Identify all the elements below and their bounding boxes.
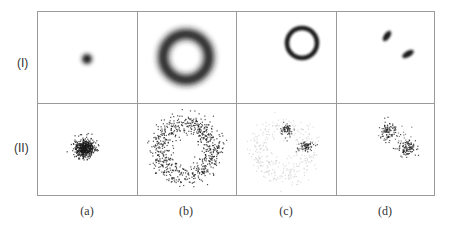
sample-point-c-faint bbox=[293, 171, 294, 172]
sample-point-c-faint bbox=[283, 164, 284, 165]
sample-point-c-faint bbox=[276, 157, 277, 158]
sample-point-b bbox=[160, 161, 161, 162]
sample-point-c-faint bbox=[300, 162, 301, 163]
col-label-b: (b) bbox=[179, 204, 193, 218]
sample-point-b bbox=[168, 134, 169, 135]
sample-point-a bbox=[83, 140, 84, 141]
sample-point-b bbox=[172, 177, 173, 178]
sample-point-b bbox=[188, 172, 189, 173]
sample-point-b bbox=[176, 168, 177, 169]
sample-point-a bbox=[80, 141, 81, 142]
sample-point-d-cluster bbox=[379, 127, 380, 128]
sample-point-c-faint bbox=[272, 125, 273, 126]
sample-point-d-cluster bbox=[382, 136, 383, 137]
sample-point-b bbox=[186, 123, 187, 124]
sample-point-b bbox=[206, 158, 207, 159]
sample-point-b bbox=[153, 163, 154, 164]
sample-point-c-faint bbox=[285, 178, 286, 179]
density-a-blob bbox=[82, 54, 92, 64]
sample-point-c-faint bbox=[249, 153, 250, 154]
sample-point-d-cluster bbox=[417, 148, 418, 149]
sample-point-b bbox=[168, 164, 169, 165]
sample-point-c-faint bbox=[300, 146, 301, 147]
sample-point-b bbox=[196, 170, 197, 171]
sample-point-b bbox=[217, 154, 218, 155]
sample-point-b bbox=[163, 173, 164, 174]
sample-point-c-faint bbox=[256, 125, 257, 126]
sample-point-c-faint bbox=[273, 164, 274, 165]
density-b-ring bbox=[163, 34, 209, 80]
sample-point-b bbox=[198, 176, 199, 177]
sample-point-b bbox=[203, 131, 204, 132]
sample-point-a bbox=[71, 144, 72, 145]
sample-point-b bbox=[205, 119, 206, 120]
sample-point-d-scatter bbox=[378, 135, 379, 136]
sample-point-c-cluster bbox=[289, 133, 290, 134]
sample-point-b bbox=[164, 172, 165, 173]
sample-point-c-cluster bbox=[301, 143, 302, 144]
sample-point-b bbox=[204, 160, 205, 161]
sample-point-c-faint bbox=[308, 129, 309, 130]
sample-point-c-faint bbox=[289, 178, 290, 179]
sample-point-b bbox=[155, 166, 156, 167]
sample-point-c-faint bbox=[313, 152, 314, 153]
sample-point-c-faint bbox=[267, 171, 268, 172]
sample-point-d-cluster bbox=[413, 146, 414, 147]
sample-point-d-cluster bbox=[392, 128, 393, 129]
sample-point-d-scatter bbox=[395, 128, 396, 129]
sample-point-c-faint bbox=[315, 142, 316, 143]
sample-point-c-cluster bbox=[291, 131, 292, 132]
sample-point-c-faint bbox=[298, 141, 299, 142]
sample-point-c-faint bbox=[296, 154, 297, 155]
sample-point-d-scatter bbox=[397, 136, 398, 137]
sample-point-b bbox=[163, 151, 164, 152]
sample-point-c-cluster bbox=[308, 147, 309, 148]
sample-point-c-faint bbox=[258, 168, 259, 169]
sample-point-b bbox=[193, 119, 194, 120]
sample-point-d-cluster bbox=[409, 153, 410, 154]
sample-point-b bbox=[180, 165, 181, 166]
sample-point-c-faint bbox=[304, 168, 305, 169]
row-label-density: (I) bbox=[17, 56, 28, 70]
sample-point-d-cluster bbox=[383, 132, 384, 133]
sample-point-d-cluster bbox=[415, 140, 416, 141]
sample-point-c-faint bbox=[261, 161, 262, 162]
sample-point-b bbox=[188, 174, 189, 175]
sample-point-c-faint bbox=[272, 153, 273, 154]
sample-point-b bbox=[179, 121, 180, 122]
sample-point-c-faint bbox=[307, 125, 308, 126]
sample-point-c-cluster bbox=[305, 150, 306, 151]
sample-point-c-faint bbox=[263, 132, 264, 133]
sample-point-c-cluster bbox=[304, 144, 305, 145]
sample-point-a bbox=[75, 149, 76, 150]
sample-point-c-faint bbox=[297, 180, 298, 181]
sample-point-c-faint bbox=[279, 125, 280, 126]
sample-point-b bbox=[164, 142, 165, 143]
sample-point-c-cluster bbox=[282, 131, 283, 132]
sample-point-b bbox=[158, 129, 159, 130]
sample-point-a bbox=[77, 142, 78, 143]
sample-point-c-faint bbox=[275, 175, 276, 176]
sample-point-a bbox=[75, 144, 76, 145]
sample-point-b bbox=[219, 134, 220, 135]
sample-point-b bbox=[197, 172, 198, 173]
sample-point-b bbox=[170, 139, 171, 140]
sample-point-c-cluster bbox=[294, 129, 295, 130]
sample-point-b bbox=[206, 142, 207, 143]
sample-point-b bbox=[184, 178, 185, 179]
sample-point-c-faint bbox=[262, 165, 263, 166]
sample-point-c-faint bbox=[283, 168, 284, 169]
sample-point-c-faint bbox=[260, 165, 261, 166]
sample-point-b bbox=[151, 146, 152, 147]
sample-point-b bbox=[179, 179, 180, 180]
sample-point-c-faint bbox=[266, 134, 267, 135]
sample-point-c-faint bbox=[305, 132, 306, 133]
sample-point-c-faint bbox=[307, 166, 308, 167]
sample-point-b bbox=[161, 129, 162, 130]
sample-point-b bbox=[161, 126, 162, 127]
sample-point-b bbox=[165, 160, 166, 161]
sample-point-c-cluster bbox=[287, 140, 288, 141]
sample-point-c-faint bbox=[289, 170, 290, 171]
sample-point-d-cluster bbox=[399, 146, 400, 147]
sample-point-b bbox=[206, 144, 207, 145]
